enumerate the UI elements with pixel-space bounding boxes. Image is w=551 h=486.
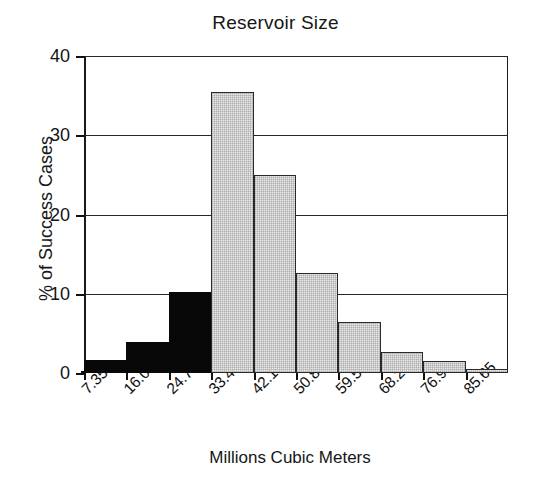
bar[interactable] [84, 360, 126, 373]
plot-area [84, 56, 508, 373]
y-axis-tick [76, 135, 85, 137]
y-axis-tick-label: 0 [12, 363, 70, 384]
y-axis-tick [76, 294, 85, 296]
gridline [84, 215, 508, 216]
gridline [84, 56, 508, 57]
y-axis-tick [76, 215, 85, 217]
chart-title: Reservoir Size [0, 12, 551, 34]
y-axis-tick-label: 20 [12, 204, 70, 225]
y-axis-tick-label: 30 [12, 125, 70, 146]
bar[interactable] [296, 273, 338, 373]
bar[interactable] [211, 92, 253, 373]
bar[interactable] [381, 352, 423, 373]
y-axis-tick [76, 56, 85, 58]
y-axis-tick-label: 40 [12, 46, 70, 67]
bar[interactable] [466, 369, 508, 373]
chart-page: Reservoir Size % of Success Cases 010203… [0, 0, 551, 486]
bar[interactable] [338, 322, 380, 373]
bar[interactable] [423, 361, 465, 373]
bar[interactable] [254, 175, 296, 373]
x-axis-title: Millions Cubic Meters [75, 448, 505, 468]
bar[interactable] [126, 342, 168, 373]
bar[interactable] [169, 292, 211, 373]
gridline [84, 135, 508, 136]
y-axis-tick-label: 10 [12, 283, 70, 304]
